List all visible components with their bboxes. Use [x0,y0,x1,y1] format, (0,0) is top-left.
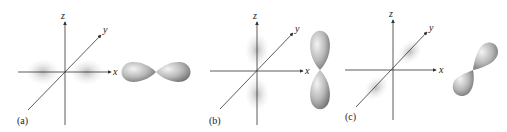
z-axis-label: z [388,8,393,19]
panel-b: z y x (b) [209,10,330,127]
panel-label-b: (b) [209,115,221,127]
y-axis-label: y [294,23,300,34]
orbital-surface-pz [310,31,330,110]
y-axis-label: y [102,24,108,35]
panel-label-c: (c) [345,111,356,123]
x-axis-label: x [112,66,118,77]
z-axis-label: z [252,10,257,21]
x-axis-label: x [304,65,310,76]
axes-c [345,20,436,120]
y-axis [356,32,427,107]
panel-c: z y x (c) [345,8,498,123]
x-axis-label: x [438,64,444,75]
orbital-surface-py [453,42,498,96]
panel-a: z y x (a) [17,10,191,127]
z-axis-label: z [60,10,65,21]
orbital-figure: z y x (a) z y x (b) [0,0,507,132]
y-axis-label: y [428,22,434,33]
orbital-surface-px [122,62,191,82]
panel-label-a: (a) [17,115,28,127]
